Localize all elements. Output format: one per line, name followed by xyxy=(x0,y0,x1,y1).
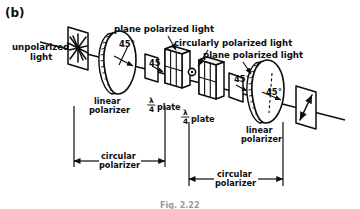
label-linear-polarizer-1: linear polarizer xyxy=(89,96,131,115)
bracket-right-line2: polarizer xyxy=(215,178,257,188)
quarter-wave-plate-2 xyxy=(199,57,224,99)
bracket-circular-polarizer-left: circular polarizer xyxy=(74,106,165,170)
aperture-plate-entry xyxy=(68,27,88,70)
aperture-plate-exit xyxy=(296,86,316,129)
figure-container: 45° 45 xyxy=(0,0,360,209)
plane-polarized-2-text: plane polarized light xyxy=(203,50,303,60)
bracket-left-line2: polarizer xyxy=(99,160,141,170)
optics-diagram: 45° 45 xyxy=(0,0,360,209)
leader-plane-polarized-2 xyxy=(243,62,251,74)
beam-label-unpolarized: unpolarized light xyxy=(12,42,69,62)
qwp2-suffix: plate xyxy=(191,114,215,124)
label-quarter-wave-plate-1: λ 4 plate xyxy=(148,96,182,114)
label-quarter-wave-plate-2: λ 4 plate xyxy=(182,108,216,126)
linear-polarizer-1-line2: polarizer xyxy=(89,105,131,115)
unpolarized-line2: light xyxy=(30,52,52,62)
angle-label-polarizer2: 45° xyxy=(266,87,282,97)
quarter-wave-plate-1: 45 xyxy=(145,46,190,88)
qwp2-numerator: λ xyxy=(183,108,188,117)
circularly-polarized-text: circularly polarized light xyxy=(174,38,292,48)
linear-polarizer-2: 45° xyxy=(247,60,284,123)
circularly-polarized-marker xyxy=(188,68,195,75)
linear-polarizer-2-line2: polarizer xyxy=(241,134,283,144)
qwp2-denominator: 4 xyxy=(183,117,188,126)
qwp1-suffix: plate xyxy=(157,102,181,112)
figure-caption: Fig. 2.22 xyxy=(160,201,200,209)
label-linear-polarizer-2: linear polarizer xyxy=(241,125,283,144)
panel-label: (b) xyxy=(5,6,25,20)
angle-label-waveplate1: 45 xyxy=(149,58,161,68)
unpolarized-line1: unpolarized xyxy=(12,42,69,52)
qwp1-denominator: 4 xyxy=(149,105,154,114)
plane-polarized-1-text: plane polarized light xyxy=(114,24,214,34)
angle-label-polarizer1: 45° xyxy=(119,39,135,49)
qwp1-numerator: λ xyxy=(149,96,154,105)
linear-polarizer-1: 45° xyxy=(99,31,136,94)
